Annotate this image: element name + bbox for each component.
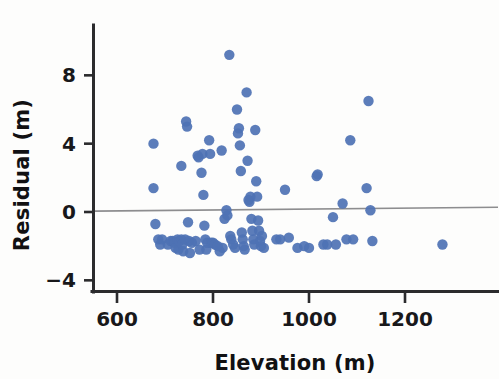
data-point — [337, 198, 347, 208]
x-tick-label: 800 — [192, 307, 234, 331]
data-point — [176, 161, 186, 171]
y-tick-label: 4 — [62, 132, 76, 156]
data-point — [216, 145, 226, 155]
data-point — [275, 234, 285, 244]
data-point — [150, 219, 160, 229]
data-point — [204, 135, 214, 145]
data-point — [224, 50, 234, 60]
data-point — [361, 183, 371, 193]
data-point — [253, 215, 263, 225]
data-point — [217, 243, 227, 253]
data-point — [280, 185, 290, 195]
data-point — [148, 138, 158, 148]
data-point — [222, 210, 232, 220]
data-point — [198, 190, 208, 200]
data-point — [345, 135, 355, 145]
x-axis-title: Elevation (m) — [214, 351, 375, 375]
data-point — [365, 205, 375, 215]
data-point — [196, 168, 206, 178]
data-point — [235, 140, 245, 150]
data-point — [259, 243, 269, 253]
data-point — [234, 123, 244, 133]
data-point — [242, 156, 252, 166]
data-point — [348, 234, 358, 244]
data-point — [437, 239, 447, 249]
y-tick-label: 0 — [62, 200, 76, 224]
scatter-plot-figure: −4048 60080010001200 Elevation (m) Resid… — [0, 0, 499, 379]
x-tick-label: 600 — [96, 307, 138, 331]
data-point — [284, 232, 294, 242]
data-point — [257, 231, 267, 241]
data-point — [236, 166, 246, 176]
data-point — [252, 191, 262, 201]
data-point — [250, 125, 260, 135]
data-point — [241, 87, 251, 97]
data-point — [328, 212, 338, 222]
data-point — [182, 121, 192, 131]
y-axis-title: Residual (m) — [10, 99, 34, 251]
data-point — [148, 183, 158, 193]
data-point — [331, 239, 341, 249]
data-point — [183, 217, 193, 227]
data-point — [367, 236, 377, 246]
y-tick-label: 8 — [62, 63, 76, 87]
data-point — [251, 176, 261, 186]
y-tick-label: −4 — [45, 268, 76, 292]
plot-canvas: −4048 60080010001200 Elevation (m) Resid… — [0, 0, 499, 379]
data-point — [185, 248, 195, 258]
data-point — [239, 244, 249, 254]
data-point — [363, 96, 373, 106]
x-tick-label: 1000 — [281, 307, 337, 331]
data-point — [205, 149, 215, 159]
data-point — [199, 220, 209, 230]
data-point — [230, 243, 240, 253]
x-tick-label: 1200 — [377, 307, 433, 331]
data-point — [312, 169, 322, 179]
data-point — [304, 243, 314, 253]
data-point — [232, 104, 242, 114]
